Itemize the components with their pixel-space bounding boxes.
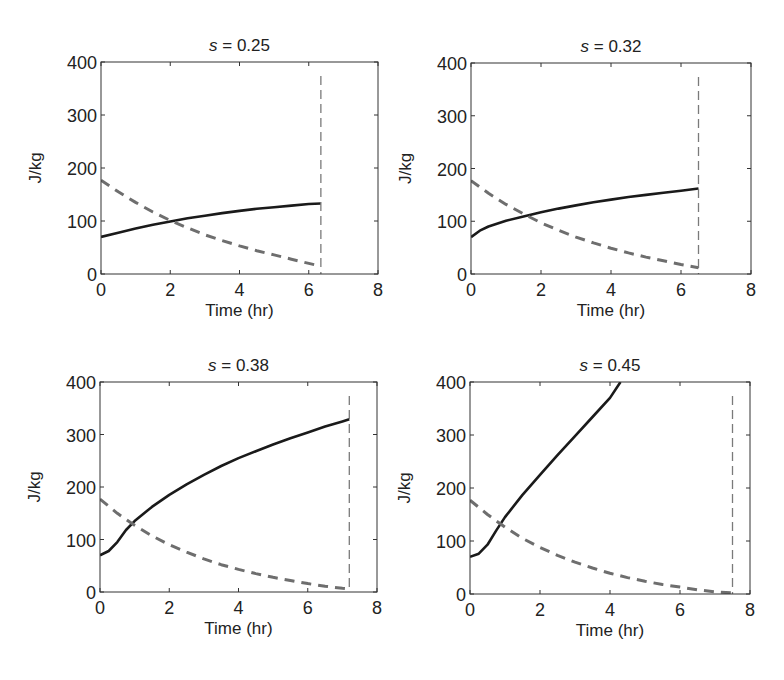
- plot-area: [101, 180, 321, 266]
- y-axis-label: J/kg: [396, 153, 415, 184]
- solid-line-series: [100, 419, 349, 555]
- y-tick-label: 100: [437, 212, 467, 232]
- x-tick-label: 2: [165, 280, 175, 300]
- x-tick-label: 0: [95, 598, 105, 618]
- axes-frame: [100, 382, 377, 592]
- y-tick-label: 100: [436, 532, 466, 552]
- x-tick-label: 8: [745, 600, 755, 620]
- y-tick-label: 300: [437, 107, 467, 127]
- x-tick-label: 0: [465, 600, 475, 620]
- plot-area: [470, 382, 733, 593]
- y-tick-label: 0: [87, 265, 97, 285]
- plot-area: [471, 181, 699, 268]
- x-tick-label: 0: [96, 280, 106, 300]
- plot-area: [100, 419, 349, 589]
- x-axis-label: Time (hr): [204, 619, 272, 638]
- dashed-line-series: [470, 500, 733, 593]
- subplot-s-0.25: 024680100200300400s = 0.25Time (hr)J/kg: [26, 36, 383, 320]
- x-tick-label: 2: [535, 600, 545, 620]
- y-axis-label: J/kg: [395, 472, 414, 503]
- y-tick-label: 400: [437, 54, 467, 74]
- x-tick-label: 0: [466, 280, 476, 300]
- x-tick-label: 6: [304, 280, 314, 300]
- y-tick-label: 400: [67, 53, 97, 73]
- axes-frame: [101, 62, 378, 274]
- x-tick-label: 2: [536, 280, 546, 300]
- x-tick-label: 8: [746, 280, 756, 300]
- solid-line-series: [470, 382, 621, 557]
- x-tick-label: 2: [164, 598, 174, 618]
- y-tick-label: 0: [456, 585, 466, 605]
- x-tick-label: 6: [303, 598, 313, 618]
- x-axis-label: Time (hr): [577, 301, 645, 320]
- dashed-line-series: [101, 180, 321, 266]
- x-tick-label: 6: [675, 600, 685, 620]
- y-tick-label: 0: [457, 265, 467, 285]
- x-tick-label: 8: [372, 598, 382, 618]
- y-tick-label: 200: [67, 159, 97, 179]
- x-tick-label: 4: [605, 600, 615, 620]
- solid-line-series: [101, 204, 321, 237]
- y-axis-label: J/kg: [26, 152, 45, 183]
- subplot-title: s = 0.32: [581, 37, 642, 56]
- x-tick-label: 4: [233, 598, 243, 618]
- subplot-title: s = 0.38: [208, 356, 269, 375]
- x-tick-label: 4: [234, 280, 244, 300]
- x-tick-label: 6: [676, 280, 686, 300]
- subplot-s-0.38: 024680100200300400s = 0.38Time (hr)J/kg: [25, 356, 382, 638]
- subplot-s-0.45: 024680100200300400s = 0.45Time (hr)J/kg: [395, 356, 755, 640]
- figure: 024680100200300400s = 0.25Time (hr)J/kg …: [0, 0, 784, 680]
- x-tick-label: 8: [373, 280, 383, 300]
- y-tick-label: 100: [67, 212, 97, 232]
- y-tick-label: 400: [436, 373, 466, 393]
- y-tick-label: 300: [436, 426, 466, 446]
- y-tick-label: 300: [67, 106, 97, 126]
- y-tick-label: 200: [66, 478, 96, 498]
- subplot-title: s = 0.25: [209, 36, 270, 55]
- x-axis-label: Time (hr): [205, 301, 273, 320]
- y-tick-label: 300: [66, 426, 96, 446]
- solid-line-series: [471, 189, 699, 238]
- y-tick-label: 0: [86, 583, 96, 603]
- y-axis-label: J/kg: [25, 471, 44, 502]
- axes-frame: [471, 63, 751, 274]
- subplot-s-0.32: 024680100200300400s = 0.32Time (hr)J/kg: [396, 37, 756, 320]
- dashed-line-series: [100, 499, 349, 589]
- y-tick-label: 200: [437, 160, 467, 180]
- y-tick-label: 100: [66, 531, 96, 551]
- y-tick-label: 200: [436, 479, 466, 499]
- x-tick-label: 4: [606, 280, 616, 300]
- y-tick-label: 400: [66, 373, 96, 393]
- subplot-title: s = 0.45: [580, 356, 641, 375]
- x-axis-label: Time (hr): [576, 621, 644, 640]
- axes-frame: [470, 382, 750, 594]
